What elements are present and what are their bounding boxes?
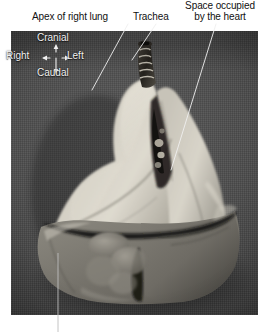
label-heart-line2: by the heart — [180, 11, 260, 22]
label-trachea: Trachea — [133, 11, 169, 22]
label-space-occupied-by-the-heart: Space occupied by the heart — [180, 0, 260, 22]
label-heart-line1: Space occupied — [185, 0, 255, 11]
compass-label-left: Left — [67, 50, 84, 61]
label-apex-of-right-lung: Apex of right lung — [32, 11, 108, 22]
compass-crosshair-icon — [11, 31, 131, 131]
compass-label-cranial: Cranial — [37, 32, 69, 43]
figure-panel: Apex of right lung Trachea Space occupie… — [0, 0, 266, 332]
compass-label-right: Right — [6, 50, 29, 61]
compass-label-caudal: Caudal — [37, 67, 69, 78]
orientation-compass: Cranial Caudal Right Left — [11, 31, 131, 131]
